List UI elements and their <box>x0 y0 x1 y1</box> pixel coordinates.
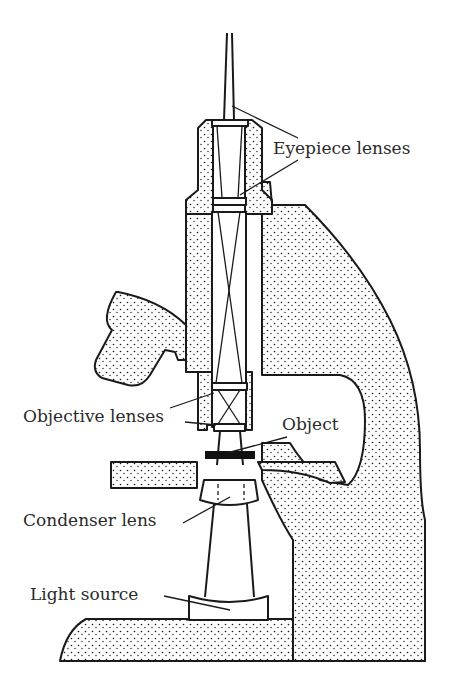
label-objective-lenses: Objective lenses <box>23 408 164 425</box>
stage-left <box>111 462 197 488</box>
condenser-lens <box>200 480 258 505</box>
label-object: Object <box>282 416 339 433</box>
eyepiece-lens-top <box>212 120 248 126</box>
label-light-source: Light source <box>30 586 138 603</box>
eyepiece-lens-bottom <box>213 198 246 205</box>
body-tube <box>212 212 246 387</box>
objective-lens-bottom <box>214 424 245 431</box>
objective-lens-top <box>212 383 247 390</box>
light-source <box>189 596 268 620</box>
label-condenser-lens: Condenser lens <box>23 512 157 529</box>
label-eyepiece-lenses: Eyepiece lenses <box>273 140 410 157</box>
